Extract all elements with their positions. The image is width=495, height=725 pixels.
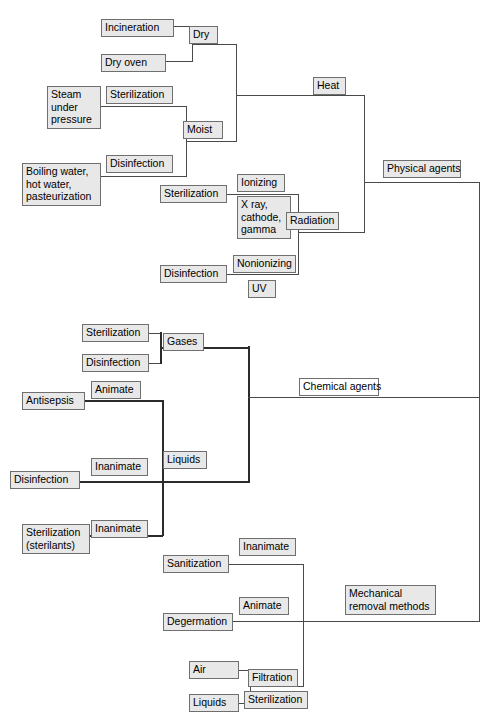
node-animate-degermation: Animate bbox=[239, 597, 289, 615]
connector-main-spine bbox=[479, 182, 480, 622]
connector-physical-agents-join bbox=[364, 95, 365, 233]
node-inanimate-sanitization: Inanimate bbox=[239, 538, 296, 556]
node-inanimate-disinfection: Inanimate bbox=[91, 458, 148, 476]
connector-physical-agents-out bbox=[364, 182, 480, 183]
connector-heat-join bbox=[236, 44, 237, 142]
connector-dryoven-stub bbox=[166, 61, 192, 62]
connector-heat-out bbox=[236, 95, 364, 96]
connector-sterilization-radiation-out bbox=[227, 194, 299, 195]
node-nonionizing: Nonionizing bbox=[233, 255, 296, 273]
node-sterilization-moist: Sterilization bbox=[106, 86, 173, 104]
node-degermation: Degermation bbox=[163, 613, 233, 631]
node-mechanical-removal-methods: Mechanical removal methods bbox=[345, 585, 436, 615]
node-liquids-filtration: Liquids bbox=[189, 694, 239, 712]
node-sterilization-gases: Sterilization bbox=[82, 324, 149, 342]
node-boiling-water: Boiling water, hot water, pasteurization bbox=[22, 163, 101, 206]
connector-radiation-out bbox=[298, 232, 364, 233]
node-disinfection-gases: Disinfection bbox=[82, 354, 149, 372]
node-dry-oven: Dry oven bbox=[101, 54, 166, 72]
node-uv: UV bbox=[248, 280, 276, 298]
node-disinfection-liquids: Disinfection bbox=[10, 471, 80, 489]
connector-moist-out bbox=[186, 141, 236, 142]
node-moist: Moist bbox=[183, 121, 223, 139]
node-dry: Dry bbox=[189, 26, 218, 44]
connector-filtration-to-spine bbox=[298, 686, 304, 687]
node-sanitization: Sanitization bbox=[163, 555, 229, 573]
node-disinfection-radiation: Disinfection bbox=[160, 265, 227, 283]
connector-steam-out bbox=[100, 106, 186, 107]
connector-dry-out bbox=[192, 44, 236, 45]
node-filtration: Filtration bbox=[248, 669, 298, 687]
connector-mechanical-spine bbox=[303, 564, 304, 686]
node-sterilization-radiation: Sterilization bbox=[160, 185, 227, 203]
connector-chemical-agents-out bbox=[248, 397, 480, 398]
connector-radiation-join bbox=[298, 194, 299, 275]
node-radiation: Radiation bbox=[286, 212, 339, 230]
node-sterilization-sterilants: Sterilization (sterilants) bbox=[22, 524, 90, 554]
connector-boiling-out bbox=[100, 176, 186, 177]
node-disinfection-moist: Disinfection bbox=[106, 155, 173, 173]
connector-disinfection-liquids-out bbox=[79, 481, 250, 483]
node-air: Air bbox=[189, 661, 239, 679]
node-physical-agents: Physical agents bbox=[383, 160, 461, 178]
connector-disinfection-radiation-out bbox=[227, 274, 299, 275]
node-steam-under-pressure: Steam under pressure bbox=[47, 86, 101, 129]
connector-degermation-out bbox=[233, 621, 480, 622]
node-antisepsis: Antisepsis bbox=[22, 392, 85, 410]
node-inanimate-sterilants: Inanimate bbox=[91, 520, 148, 538]
node-sterilization-filtration: Sterilization bbox=[244, 691, 308, 709]
node-incineration: Incineration bbox=[101, 19, 174, 37]
node-chemical-agents: Chemical agents bbox=[299, 378, 379, 396]
diagram-canvas: Incineration Dry oven Dry Steam under pr… bbox=[0, 0, 495, 725]
node-ionizing: Ionizing bbox=[237, 174, 285, 192]
node-gases: Gases bbox=[163, 333, 204, 351]
node-xray-cathode-gamma: X ray, cathode, gamma bbox=[237, 196, 291, 239]
node-liquids-chemical: Liquids bbox=[163, 451, 207, 469]
node-heat: Heat bbox=[313, 77, 346, 95]
connector-antisepsis-out bbox=[84, 400, 163, 402]
connector-gases-liquids-join bbox=[248, 346, 250, 482]
node-animate-antisepsis: Animate bbox=[91, 381, 141, 399]
connector-sanitization-out bbox=[229, 564, 304, 565]
